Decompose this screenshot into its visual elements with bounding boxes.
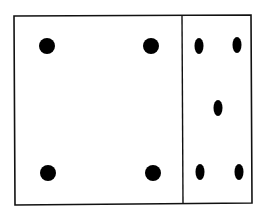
panel-divider [182,16,183,204]
dot-ellipse [214,100,223,116]
dot-diagram [0,0,261,217]
dot-ellipse [196,164,205,180]
dot-ellipse [195,38,204,54]
dot-ellipse [235,164,244,180]
right-panel-dots [195,37,244,180]
dot-ellipse [233,37,242,53]
dot-circle [143,38,159,54]
left-panel-dots [39,38,161,181]
dot-circle [40,165,56,181]
dot-circle [39,38,55,54]
dot-circle [145,165,161,181]
